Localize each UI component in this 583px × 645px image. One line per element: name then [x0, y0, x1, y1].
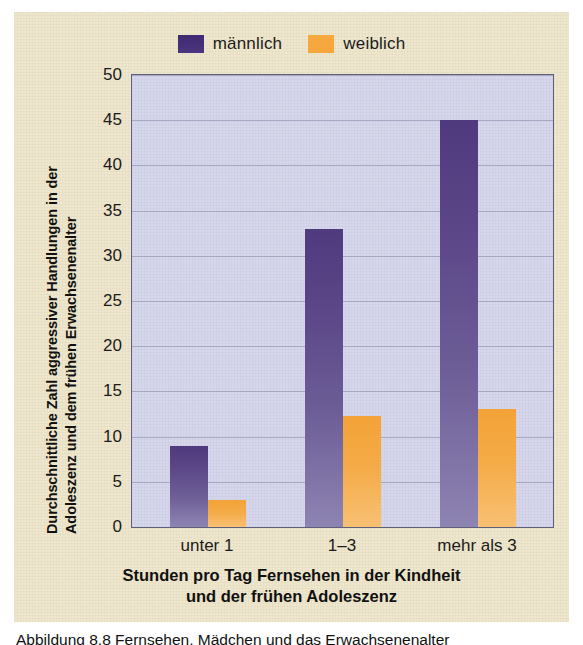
bar-female: [208, 500, 246, 527]
y-axis-tick-label: 10: [103, 427, 122, 447]
y-axis-tick-label: 5: [113, 472, 122, 492]
x-axis-tick-label: 1–3: [328, 536, 356, 556]
legend-swatch-male-icon: [178, 35, 204, 53]
bar-male: [170, 446, 208, 527]
bar-group: [305, 75, 381, 527]
x-axis-title-line-1: Stunden pro Tag Fernsehen in der Kindhei…: [14, 565, 569, 586]
bar-series-container: [132, 75, 553, 527]
y-axis-tick-label: 25: [103, 291, 122, 311]
y-axis-tick-label: 0: [113, 517, 122, 537]
x-axis-tick-label: unter 1: [181, 536, 234, 556]
figure-caption: Abbildung 8.8 Fernsehen, Mädchen und das…: [16, 630, 567, 645]
plot-area: 05101520253035404550: [131, 74, 554, 528]
y-axis-tick-label: 45: [103, 110, 122, 130]
legend-label-male: männlich: [213, 34, 283, 54]
y-axis-tick-label: 30: [103, 246, 122, 266]
legend-entry-male: männlich: [178, 34, 283, 54]
y-axis-tick-label: 20: [103, 336, 122, 356]
bar-female: [343, 416, 381, 527]
bar-group: [440, 75, 516, 527]
y-axis-title: Durchschnittliche Zahl aggressiver Handl…: [26, 64, 78, 534]
chart-legend: männlich weiblich: [14, 34, 569, 54]
y-axis-title-line-1: Durchschnittliche Zahl aggressiver Handl…: [44, 166, 60, 534]
bar-male: [305, 229, 343, 527]
x-axis-title-line-2: und der frühen Adoleszenz: [14, 586, 569, 607]
y-axis-tick-label: 35: [103, 201, 122, 221]
bar-male: [440, 120, 478, 527]
figure-panel: männlich weiblich Durchschnittliche Zahl…: [14, 12, 569, 622]
x-axis-title: Stunden pro Tag Fernsehen in der Kindhei…: [14, 565, 569, 608]
legend-swatch-female-icon: [308, 35, 334, 53]
y-axis-tick-label: 40: [103, 155, 122, 175]
bar-female: [478, 409, 516, 527]
y-axis-tick-label: 50: [103, 65, 122, 85]
legend-label-female: weiblich: [343, 34, 405, 54]
y-axis-title-line-2: Adoleszenz und dem frühen Erwachsenenalt…: [63, 217, 79, 534]
bar-group: [170, 75, 246, 527]
x-axis-tick-label: mehr als 3: [437, 536, 516, 556]
y-axis-tick-label: 15: [103, 381, 122, 401]
legend-entry-female: weiblich: [308, 34, 405, 54]
